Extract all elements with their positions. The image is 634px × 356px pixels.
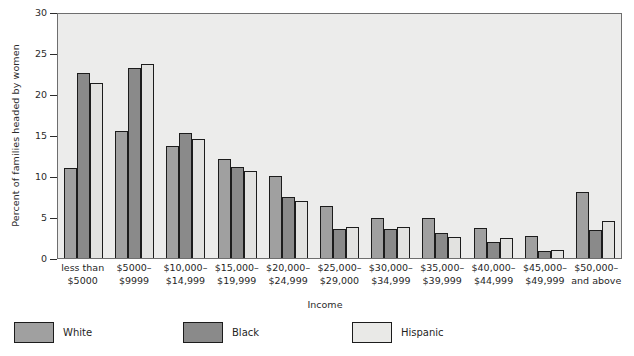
bar-group <box>519 14 570 258</box>
bar[interactable] <box>551 250 564 258</box>
x-axis-tick-label-line1: $5000– <box>117 262 152 273</box>
x-axis-tick-label-line1: $35,000– <box>420 262 464 273</box>
x-axis-tick-label-line1: $10,000– <box>163 262 207 273</box>
bar[interactable] <box>192 139 205 258</box>
bar-group <box>212 14 263 258</box>
bar-groups <box>58 14 621 258</box>
y-axis-tick-value: 25 <box>35 49 47 59</box>
bar-chart-figure: Percent of families headed by women 0510… <box>0 0 634 356</box>
y-axis-tick-value: 20 <box>35 90 47 100</box>
x-axis-title: Income <box>0 299 634 310</box>
x-axis-tick-label-line2: $9999 <box>108 275 159 288</box>
x-axis-tick-label-line2: $34,999 <box>365 275 416 288</box>
x-axis-tick-label-line2: $44,999 <box>468 275 519 288</box>
bar[interactable] <box>295 201 308 258</box>
x-axis-tick-label-line2: $24,999 <box>262 275 313 288</box>
x-axis-tick-label-line1: $25,000– <box>317 262 361 273</box>
bar-group <box>263 14 314 258</box>
legend-item[interactable]: Black <box>183 322 259 343</box>
bar[interactable] <box>448 237 461 258</box>
x-axis-tick-label-line2: $29,000 <box>314 275 365 288</box>
x-axis-tick-label-line1: $15,000– <box>215 262 259 273</box>
chart-legend: WhiteBlackHispanic <box>0 322 634 352</box>
bar[interactable] <box>77 73 90 258</box>
x-axis-tick-label: $50,000–and above <box>571 262 622 294</box>
bar[interactable] <box>320 206 333 258</box>
bar-group <box>365 14 416 258</box>
y-axis-tick-value: 10 <box>35 172 47 182</box>
x-axis-tick-label-line2: and above <box>571 275 622 288</box>
bar[interactable] <box>90 83 103 258</box>
bar[interactable] <box>166 146 179 258</box>
y-axis-tick-mark <box>50 54 57 55</box>
x-axis-tick-label-line1: $40,000– <box>472 262 516 273</box>
legend-item[interactable]: White <box>14 322 92 343</box>
x-axis-tick-label-line2: $39,999 <box>417 275 468 288</box>
x-axis-tick-label-line2: $5000 <box>57 275 108 288</box>
x-axis-tick-label: $35,000–$39,999 <box>417 262 468 294</box>
bar[interactable] <box>538 251 551 258</box>
y-axis-tick-mark <box>50 218 57 219</box>
legend-label: White <box>63 327 92 338</box>
x-axis-tick-label: $45,000–$49,999 <box>519 262 570 294</box>
bar[interactable] <box>218 159 231 258</box>
y-axis-tick-mark <box>50 136 57 137</box>
bar-group <box>160 14 211 258</box>
bar[interactable] <box>525 236 538 258</box>
plot-inner <box>58 14 621 258</box>
bar[interactable] <box>244 171 257 258</box>
plot-area <box>57 13 622 259</box>
bar[interactable] <box>474 228 487 258</box>
y-axis-tick-mark <box>50 95 57 96</box>
y-axis-tick-labels: 051015202530 <box>24 13 57 259</box>
bar[interactable] <box>397 227 410 258</box>
x-axis-tick-label-line1: less than <box>61 262 104 273</box>
bar-group <box>58 14 109 258</box>
legend-swatch <box>183 322 223 343</box>
bar[interactable] <box>384 229 397 258</box>
x-axis-tick-label-line2: $49,999 <box>519 275 570 288</box>
legend-swatch <box>14 322 54 343</box>
bar[interactable] <box>487 242 500 258</box>
bar[interactable] <box>576 192 589 258</box>
x-axis-tick-label-line2: $14,999 <box>160 275 211 288</box>
bar[interactable] <box>64 168 77 258</box>
bar[interactable] <box>371 218 384 258</box>
bar-group <box>570 14 621 258</box>
y-axis-tick-value: 5 <box>41 213 47 223</box>
bar[interactable] <box>179 133 192 258</box>
bar[interactable] <box>141 64 154 258</box>
bar[interactable] <box>128 68 141 258</box>
bar[interactable] <box>602 221 615 258</box>
bar-group <box>109 14 160 258</box>
legend-label: Hispanic <box>401 327 444 338</box>
bar[interactable] <box>333 229 346 258</box>
y-axis-title: Percent of families headed by women <box>6 0 24 270</box>
x-axis-tick-label-line2: $19,999 <box>211 275 262 288</box>
bar-group <box>416 14 467 258</box>
bar[interactable] <box>346 227 359 258</box>
legend-label: Black <box>232 327 259 338</box>
bar[interactable] <box>435 233 448 258</box>
bar[interactable] <box>282 197 295 258</box>
bar[interactable] <box>422 218 435 258</box>
x-axis-tick-label: $10,000–$14,999 <box>160 262 211 294</box>
y-axis-title-text: Percent of families headed by women <box>10 44 21 227</box>
bar[interactable] <box>589 230 602 258</box>
x-axis-tick-label-line1: $30,000– <box>369 262 413 273</box>
legend-item[interactable]: Hispanic <box>352 322 444 343</box>
bar[interactable] <box>500 238 513 258</box>
x-axis-title-text: Income <box>308 299 343 310</box>
x-axis-tick-label: $30,000–$34,999 <box>365 262 416 294</box>
bar[interactable] <box>231 167 244 258</box>
x-axis-tick-label: less than$5000 <box>57 262 108 294</box>
x-axis-tick-labels: less than$5000$5000–$9999$10,000–$14,999… <box>57 262 622 294</box>
y-axis-tick-value: 0 <box>41 254 47 264</box>
bar[interactable] <box>115 131 128 258</box>
x-axis-tick-label: $5000–$9999 <box>108 262 159 294</box>
bar-group <box>314 14 365 258</box>
bar[interactable] <box>269 176 282 258</box>
y-axis-tick-mark <box>50 177 57 178</box>
y-axis-tick-mark <box>50 259 57 260</box>
y-axis-tick-value: 30 <box>35 8 47 18</box>
